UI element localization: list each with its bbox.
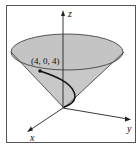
point-marker [38,69,42,73]
y-axis [63,108,128,119]
cone-diagram [0,0,137,145]
x-axis [30,108,63,130]
z-axis-label: z [68,9,72,19]
y-axis-label: y [127,124,131,134]
cone-rim [11,34,123,70]
x-axis-label: x [30,133,34,143]
point-label: (4, 0, 4) [31,57,60,66]
